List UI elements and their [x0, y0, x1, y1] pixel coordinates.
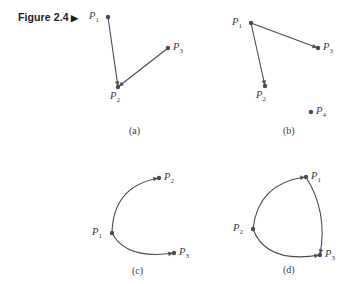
point-label-c-P1: P1: [92, 227, 102, 240]
point-label-d-P2: P2: [233, 223, 243, 236]
point-label-subscript: 2: [262, 95, 266, 103]
panel-a: [106, 15, 170, 89]
edge-c-P1-P3: [112, 233, 174, 254]
point-label-d-P1: P1: [311, 171, 321, 184]
point-dot-a-P1: [106, 15, 110, 19]
point-label-b-P2: P2: [256, 90, 266, 103]
edge-a-P1-P2: [108, 17, 118, 87]
point-label-subscript: 3: [329, 47, 333, 55]
point-label-subscript: 3: [331, 254, 335, 262]
figure-container: Figure 2.4▶ P1P2P3P1P2P3P4P1P2P3P1P2P3 (…: [0, 0, 355, 284]
point-label-b-P1: P1: [232, 17, 242, 30]
figure-number-label: Figure 2.4▶: [18, 11, 78, 23]
point-dot-b-P4: [309, 110, 313, 114]
point-label-b-P3: P3: [323, 42, 333, 55]
edge-b-P1-P2: [251, 23, 265, 86]
point-label-subscript: 4: [322, 111, 326, 119]
point-dot-b-P1: [249, 21, 253, 25]
point-label-subscript: 1: [317, 176, 321, 184]
panel-c: [110, 176, 176, 256]
point-dot-a-P3: [166, 46, 170, 50]
point-label-c-P3: P3: [179, 247, 189, 260]
figure-number-text: Figure 2.4: [18, 11, 69, 23]
point-dot-b-P2: [263, 84, 267, 88]
point-dot-d-P3: [318, 253, 322, 257]
point-dot-c-P1: [110, 231, 114, 235]
point-label-subscript: 3: [179, 47, 183, 55]
point-label-b-P4: P4: [316, 106, 326, 119]
point-dot-c-P2: [157, 176, 161, 180]
point-label-subscript: 1: [238, 22, 242, 30]
panel-caption-b: (b): [283, 126, 295, 136]
point-label-subscript: 1: [98, 232, 102, 240]
point-label-subscript: 2: [239, 228, 243, 236]
panel-d: [251, 175, 323, 258]
edge-d-P1-P3: [306, 177, 322, 255]
point-label-d-P3: P3: [325, 249, 335, 262]
point-label-subscript: 2: [170, 177, 174, 185]
edge-d-P2-P3: [253, 229, 320, 257]
point-label-subscript: 2: [116, 96, 120, 104]
point-label-a-P1: P1: [89, 11, 99, 24]
point-dot-c-P3: [172, 251, 176, 255]
point-label-a-P3: P3: [173, 42, 183, 55]
edge-b-P1-P3: [251, 23, 318, 48]
edge-c-P1-P2: [112, 178, 159, 233]
panel-caption-a: (a): [129, 126, 140, 136]
point-dot-b-P3: [316, 46, 320, 50]
point-label-c-P2: P2: [164, 172, 174, 185]
point-label-subscript: 1: [95, 16, 99, 24]
point-label-a-P2: P2: [110, 91, 120, 104]
panel-caption-d: (d): [283, 265, 295, 275]
panel-caption-c: (c): [132, 266, 143, 276]
figure-arrow-icon: ▶: [69, 13, 78, 23]
point-dot-d-P1: [304, 175, 308, 179]
edge-a-P3-P2: [118, 48, 168, 87]
point-label-subscript: 3: [185, 252, 189, 260]
point-dot-a-P2: [116, 85, 120, 89]
edge-d-P2-P1: [253, 177, 306, 229]
point-dot-d-P2: [251, 227, 255, 231]
